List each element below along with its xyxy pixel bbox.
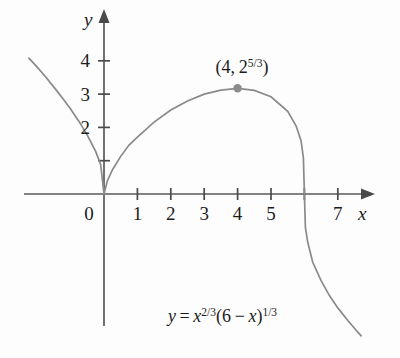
eq-x: x (192, 306, 201, 326)
x-tick-label-0: 0 (84, 203, 94, 224)
x-axis-label: x (357, 203, 367, 224)
function-curve-group (29, 58, 361, 336)
x-tick-label-3: 3 (199, 203, 209, 224)
x-tick-label-1: 1 (133, 203, 143, 224)
graph-figure: y x 0123457 234 (4, 25/3) y = x2/3(6 − x… (0, 0, 400, 358)
axes-group (24, 9, 375, 326)
label-exponent: 5/3 (248, 57, 263, 69)
y-tick-label-2: 2 (81, 117, 91, 138)
label-close-paren: ) (262, 57, 268, 78)
equation-label: y = x2/3(6 − x)1/3 (166, 306, 277, 327)
eq-exp2: 1/3 (262, 306, 277, 318)
label-x-value: 4, (222, 57, 239, 77)
x-tick-label-7: 7 (333, 203, 343, 224)
x-tick-label-5: 5 (266, 203, 276, 224)
local-maximum-point (233, 84, 241, 92)
eq-exp1: 2/3 (201, 306, 216, 318)
curve-left-branch (29, 58, 104, 194)
x-axis-arrow-icon (361, 189, 375, 200)
local-maximum-label: (4, 25/3) (216, 57, 269, 78)
label-base: 2 (239, 57, 248, 77)
x-tick-label-4: 4 (233, 203, 243, 224)
y-axis-label: y (82, 9, 93, 30)
y-tick-labels: 234 (81, 50, 91, 138)
y-tick-label-4: 4 (81, 50, 91, 71)
eq-x2: x (247, 306, 256, 326)
x-tick-label-2: 2 (166, 203, 176, 224)
eq-six: 6 (222, 306, 231, 326)
eq-y: y (166, 306, 176, 326)
y-axis-arrow-icon (99, 9, 110, 23)
y-tick-label-3: 3 (81, 84, 91, 105)
x-tick-labels: 0123457 (84, 203, 342, 224)
